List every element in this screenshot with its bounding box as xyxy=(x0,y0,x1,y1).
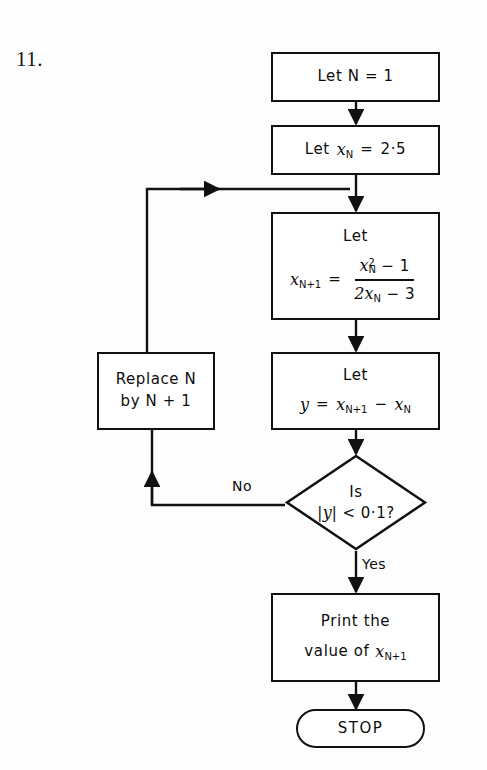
node-iteration-formula: Let xN+1 = x2N − 1 2xN − 3 xyxy=(271,212,440,320)
decision-label-group: Is |y| < 0·1? xyxy=(285,454,427,551)
node-decision-abs-y: Is |y| < 0·1? xyxy=(285,454,427,551)
node-let-xn-keyword: Let xyxy=(305,139,330,161)
node-print-result: Print the value of xN+1 xyxy=(271,593,440,682)
decision-comparator: < xyxy=(342,503,355,523)
node-let-xn-initial: Let xN = 2·5 xyxy=(271,125,440,175)
node-difference-lhs: y xyxy=(300,393,309,416)
node-let-n-text: Let N = 1 xyxy=(317,66,393,88)
edge-decision-no-to-replace xyxy=(152,472,285,505)
node-iteration-equation: xN+1 = x2N − 1 2xN − 3 xyxy=(290,254,421,307)
node-print-variable: xN+1 xyxy=(375,640,406,664)
decision-threshold: 0·1? xyxy=(361,503,395,523)
node-print-line1: Print the xyxy=(321,611,390,633)
node-difference-minus: − xyxy=(374,394,387,416)
question-number: 11. xyxy=(16,47,43,72)
node-iteration-equals: = xyxy=(328,269,341,291)
node-difference-equation: y = xN+1 − xN xyxy=(300,393,411,417)
node-stop-terminator: STOP xyxy=(296,709,425,748)
node-difference-equals: = xyxy=(316,394,329,416)
node-let-xn-row: Let xN = 2·5 xyxy=(305,138,406,162)
node-let-n-equals-1: Let N = 1 xyxy=(271,52,440,102)
node-iteration-fraction: x2N − 1 2xN − 3 xyxy=(350,254,419,307)
node-replace-line1: Replace N xyxy=(116,369,197,391)
node-iteration-numerator: x2N − 1 xyxy=(355,254,414,281)
node-difference-formula: Let y = xN+1 − xN xyxy=(271,352,440,430)
node-let-xn-value: 2·5 xyxy=(381,139,407,161)
edge-label-yes: Yes xyxy=(362,556,386,572)
node-let-xn-variable: xN xyxy=(337,138,354,162)
node-print-line2: value of xN+1 xyxy=(304,640,406,664)
edge-label-no: No xyxy=(232,478,252,494)
node-iteration-keyword: Let xyxy=(343,226,368,248)
decision-condition: |y| < 0·1? xyxy=(317,502,395,524)
node-difference-term2: xN xyxy=(395,393,412,417)
node-difference-term1: xN+1 xyxy=(336,393,367,417)
node-let-xn-equals: = xyxy=(360,139,373,161)
flowchart-figure: 11. xyxy=(0,0,487,770)
node-iteration-denominator: 2xN − 3 xyxy=(350,281,419,306)
node-difference-keyword: Let xyxy=(343,365,368,387)
node-iteration-lhs: xN+1 xyxy=(290,268,321,292)
node-replace-line2: by N + 1 xyxy=(121,391,192,413)
node-replace-n: Replace N by N + 1 xyxy=(97,352,215,430)
decision-line1: Is xyxy=(349,482,362,502)
node-stop-text: STOP xyxy=(338,718,384,740)
node-print-line2-prefix: value of xyxy=(304,641,369,663)
decision-abs-expression: |y| xyxy=(317,502,337,524)
